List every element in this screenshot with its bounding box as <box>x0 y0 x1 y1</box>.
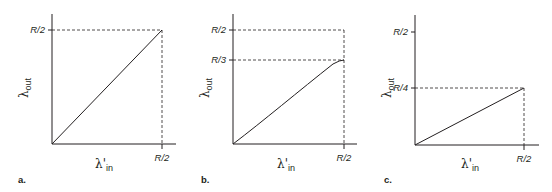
svg-text:λout: λout <box>198 77 214 98</box>
svg-text:λout: λout <box>17 77 33 98</box>
y-tick-label-mid: R/3 <box>211 54 227 65</box>
x-axis-label: λ'in <box>461 157 479 173</box>
y-tick-label-top: R/2 <box>211 24 227 35</box>
panel-label: c. <box>384 174 392 185</box>
x-axis-label: λ'in <box>95 157 113 173</box>
throughput-line <box>52 30 162 144</box>
y-axis-label: λout <box>380 77 396 98</box>
x-tick-label: R/2 <box>155 152 171 163</box>
panel-c: R/2 R/4 R/2 λout λ'in c. <box>380 15 539 185</box>
y-axis-label: λout <box>17 77 33 98</box>
x-tick-label: R/2 <box>517 153 533 164</box>
panel-label: b. <box>201 174 209 185</box>
y-axis-label: λout <box>198 77 214 98</box>
figure: R/2 R/2 λout λ'in a. R/2 R/3 R/2 λout λ'… <box>0 0 552 192</box>
x-axis-label: λ'in <box>277 157 295 173</box>
panel-a: R/2 R/2 λout λ'in a. <box>17 14 176 185</box>
svg-text:λout: λout <box>380 77 396 98</box>
x-tick-label: R/2 <box>337 152 353 163</box>
panel-label: a. <box>18 174 26 185</box>
throughput-line <box>415 88 524 145</box>
y-tick-label-top: R/2 <box>393 26 409 37</box>
panel-b: R/2 R/3 R/2 λout λ'in b. <box>198 14 357 185</box>
throughput-curve <box>233 60 344 144</box>
y-tick-label: R/2 <box>30 24 46 35</box>
